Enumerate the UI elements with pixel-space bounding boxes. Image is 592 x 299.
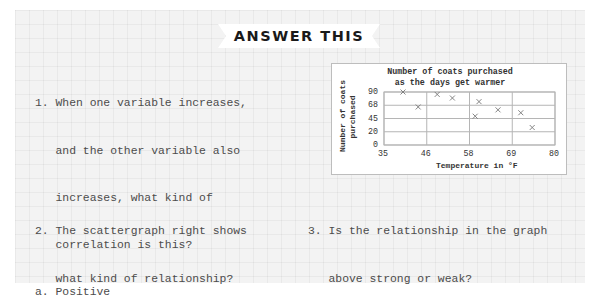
banner-title: ANSWER THIS [218, 24, 380, 48]
scatter-chart: Number of coats purchased as the days ge… [331, 63, 567, 175]
x-tick-label: 46 [421, 149, 431, 158]
question-text-line: what kind of relationship? [35, 272, 247, 288]
question-text-line: above strong or weak? [308, 272, 547, 288]
data-point-x-marker [435, 92, 440, 97]
data-point-x-marker [477, 99, 482, 104]
x-tick-label: 80 [549, 149, 559, 158]
x-tick-label: 69 [506, 149, 516, 158]
y-tick-label: 90 [362, 87, 378, 96]
question-text-line: 1. When one variable increases, [35, 96, 247, 112]
y-tick-label: 0 [362, 140, 378, 149]
data-point-x-marker [450, 96, 455, 101]
question-text-line: 2. The scattergraph right shows [35, 224, 247, 240]
data-point-x-marker [530, 125, 535, 130]
y-tick-label: 20 [362, 127, 378, 136]
data-point-x-marker [518, 110, 523, 115]
data-point-x-marker [496, 107, 501, 112]
x-axis-label: Temperature in °F [436, 161, 518, 170]
x-tick-label: 58 [464, 149, 474, 158]
question-3: 3. Is the relationship in the graph abov… [308, 193, 547, 299]
question-text-line: 3. Is the relationship in the graph [308, 224, 547, 240]
y-tick-label: 68 [362, 100, 378, 109]
question-2: 2. The scattergraph right shows what kin… [35, 193, 247, 299]
question-text-line: and the other variable also [35, 144, 247, 160]
data-point-x-marker [473, 114, 478, 119]
y-tick-label: 45 [362, 114, 378, 123]
x-tick-label: 35 [378, 149, 388, 158]
answer-this-banner: ANSWER THIS [218, 24, 380, 48]
